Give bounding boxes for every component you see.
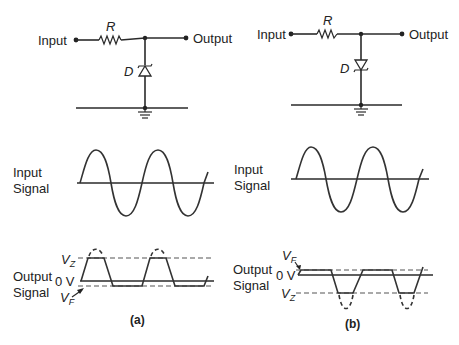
resistor-label-a: R [106, 19, 115, 34]
input-signal-b: Input Signal [234, 147, 429, 212]
diode-label-b: D [340, 61, 349, 76]
output-clipped-peak-a1 [89, 249, 103, 256]
circuit-b: Input R Output D [257, 13, 448, 115]
ground-icon-b [354, 105, 368, 115]
series-wire-a [121, 38, 145, 40]
input-signal-label-b-line1: Input [234, 162, 263, 177]
diode-label-a: D [124, 64, 133, 79]
input-label-b: Input [257, 27, 286, 42]
vf-arrow-icon-b [295, 262, 301, 270]
panel-b: Input R Output D [233, 13, 448, 331]
caption-b: (b) [345, 317, 360, 331]
resistor-label-b: R [323, 13, 332, 28]
vz-label-b: VZ [281, 286, 296, 303]
input-signal-a: Input Signal [13, 150, 214, 216]
output-signal-label-b-line2: Signal [233, 278, 269, 293]
zero-volt-label-b: 0 V [276, 268, 296, 283]
zero-volt-label-a: 0 V [55, 274, 75, 289]
output-signal-b: Output Signal 0 V VF VZ [233, 248, 433, 309]
output-label-b: Output [409, 27, 448, 42]
output-clipped-dip-b2 [400, 295, 414, 309]
output-signal-label-b-line1: Output [233, 262, 272, 277]
circuit-a: Input R Output D [38, 19, 232, 118]
output-signal-label-a-line1: Output [13, 269, 52, 284]
zener-diode-icon-a [138, 64, 152, 76]
panel-a: Input R Output D [13, 19, 232, 327]
output-label-a: Output [193, 31, 232, 46]
vf-arrow-icon-a [72, 288, 84, 297]
input-label-a: Input [38, 33, 67, 48]
output-clipped-wave-b [298, 267, 423, 293]
output-clipped-dip-b1 [339, 295, 353, 309]
output-signal-label-a-line2: Signal [13, 285, 49, 300]
output-signal-a: Output Signal 0 V VZ VF [13, 249, 214, 307]
input-signal-label-b-line2: Signal [234, 178, 270, 193]
vz-label-a: VZ [61, 252, 76, 269]
vf-label-b: VF [282, 248, 297, 265]
caption-a: (a) [130, 313, 145, 327]
input-signal-label-a-line1: Input [13, 165, 42, 180]
zener-clipper-diagram: Input R Output D [0, 0, 459, 345]
output-terminal-b [400, 32, 405, 37]
output-terminal-a [184, 36, 189, 41]
resistor-icon-b [317, 30, 337, 38]
vf-label-a: VF [60, 290, 75, 307]
ground-icon-a [138, 108, 152, 118]
input-signal-label-a-line2: Signal [13, 181, 49, 196]
resistor-icon-a [99, 36, 121, 44]
output-clipped-peak-a2 [151, 249, 165, 256]
